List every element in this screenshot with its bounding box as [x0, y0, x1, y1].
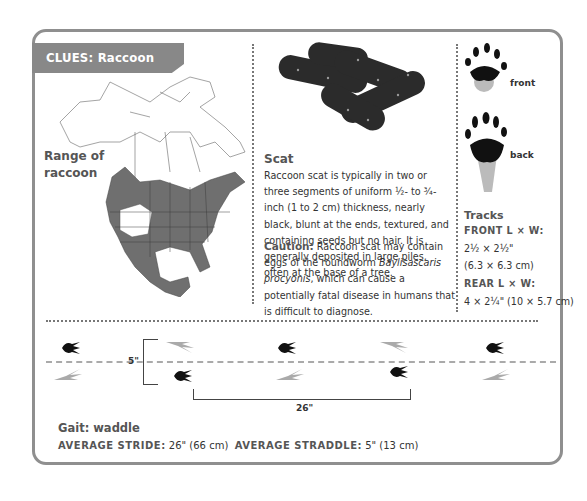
footprint-icon — [52, 366, 84, 382]
divider-horizontal — [46, 320, 538, 322]
footprint-icon — [60, 340, 82, 356]
range-label: Range of raccoon — [44, 148, 104, 182]
footprint-icon — [274, 366, 306, 382]
gait-title: Gait: waddle — [58, 421, 140, 435]
footprint-icon — [480, 366, 512, 382]
footprint-icon — [276, 340, 298, 356]
back-label: back — [510, 150, 534, 160]
straddle-bracket — [143, 339, 158, 385]
card-header: CLUES: Raccoon — [32, 43, 184, 73]
footprint-icon — [388, 364, 410, 380]
rear-heading: REAR L × W: — [464, 278, 535, 289]
footprint-icon — [484, 340, 506, 356]
front-label: front — [510, 78, 535, 88]
rear-size: 4 × 2¼" (10 × 5.7 cm) — [464, 296, 574, 307]
front-paw-icon — [462, 40, 512, 95]
scat-caution: Caution: Raccoon scat may contain eggs o… — [264, 238, 456, 320]
footprint-icon — [378, 340, 410, 356]
front-size-cm: (6.3 × 6.3 cm) — [464, 260, 534, 271]
gait-averages: AVERAGE STRIDE: 26" (66 cm) AVERAGE STRA… — [58, 440, 418, 451]
scat-illustration — [268, 40, 458, 140]
back-paw-icon — [462, 110, 512, 195]
gait-centerline — [46, 361, 556, 363]
straddle-dimension: 5" — [128, 356, 139, 366]
scat-title: Scat — [264, 152, 294, 166]
stride-bracket — [193, 389, 411, 400]
range-map — [40, 72, 250, 297]
stride-dimension: 26" — [296, 403, 313, 413]
footprint-icon — [172, 368, 194, 384]
card-title: CLUES: Raccoon — [46, 50, 154, 65]
divider-left — [252, 44, 254, 304]
front-size-in: 2½ × 2½" — [464, 243, 513, 254]
footprint-icon — [164, 340, 196, 356]
tracks-title: Tracks — [464, 209, 504, 222]
front-heading: FRONT L × W: — [464, 225, 544, 236]
